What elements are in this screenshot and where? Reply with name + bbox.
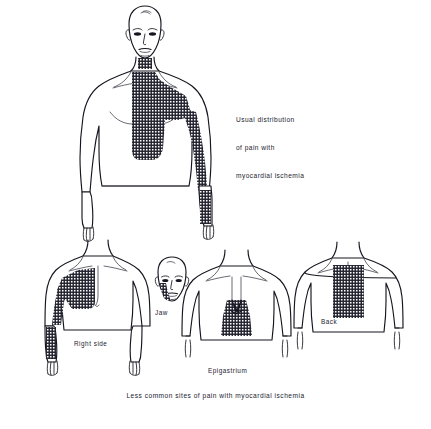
pain-region-back-interscapular xyxy=(333,265,364,318)
pain-region-throat xyxy=(138,58,152,69)
figure-right-side-arm-lower-left xyxy=(129,326,142,375)
main-figure-right-arm-lower xyxy=(82,192,94,241)
main-figure-left-arm-lower xyxy=(199,186,214,239)
bottom-caption: Less common sites of pain with myocardia… xyxy=(0,391,431,400)
illustration-plate: Usual distribution of pain with myocardi… xyxy=(0,0,431,429)
figure-right-side xyxy=(45,240,150,375)
figure-label-jaw: Jaw xyxy=(155,309,168,316)
medical-illustration-svg xyxy=(0,0,431,429)
figure-back-arm-left xyxy=(394,328,400,349)
figure-back xyxy=(294,242,403,349)
figure-label-back: Back xyxy=(321,318,337,325)
figure-label-epigastrium: Epigastrium xyxy=(208,367,247,374)
figure-right-side-arm-lower xyxy=(45,326,58,375)
main-caption: Usual distribution of pain with myocardi… xyxy=(236,97,304,198)
main-caption-line-2: of pain with xyxy=(236,143,304,152)
figure-jaw xyxy=(155,257,188,301)
main-caption-line-3: myocardial ischemia xyxy=(236,171,304,180)
figure-epigastrium xyxy=(182,250,291,357)
figure-epigastrium-arm-left xyxy=(282,336,288,357)
figure-back-arm-right xyxy=(297,328,303,349)
figure-label-right-side: Right side xyxy=(74,340,107,347)
main-figure-head xyxy=(126,6,164,58)
main-caption-line-1: Usual distribution xyxy=(236,115,304,124)
figure-epigastrium-arm-right xyxy=(185,336,191,357)
main-anterior-figure xyxy=(80,6,214,241)
